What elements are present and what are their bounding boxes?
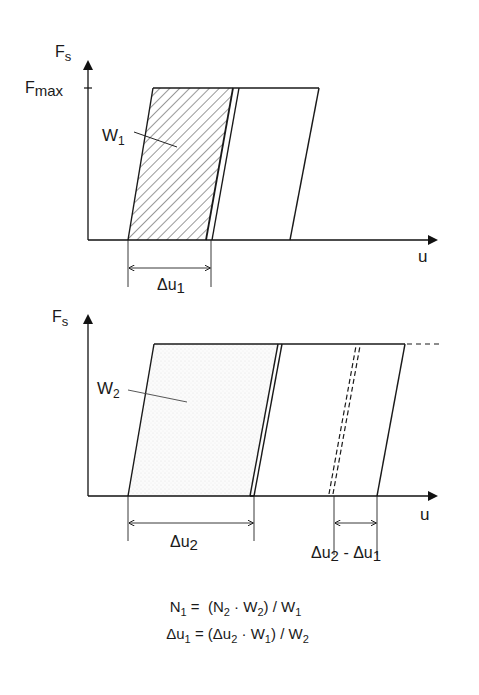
w1-label: W1 [102,126,125,148]
w2-label: W2 [97,379,120,401]
du1-label: Δu1 [157,276,185,296]
shifted-dashed-line [329,346,360,494]
diagram-canvas: Fs Fmax u W1 Δu1 [0,0,479,695]
du-difference-label: Δu2 - Δu1 [311,544,381,564]
bottom-y-axis-label: Fs [52,308,69,329]
top-x-axis-label: u [418,247,427,266]
du2-dimension [128,496,254,541]
du2-label: Δu2 [170,533,198,553]
w1-hatched-area [128,88,233,240]
bottom-x-axis-label: u [420,505,429,524]
bottom-chart: Fs u W2 Δu2 Δu2 - Δu1 [52,308,440,564]
top-y-axis-label: Fs [55,43,72,64]
formula-du1: Δu1 = (Δu2 · W1) / W2 [0,625,477,645]
top-chart: Fs Fmax u W1 Δu1 [25,43,436,296]
fmax-label: Fmax [25,79,64,99]
formula-n1: N1 = (N2 · W2) / W1 [0,598,475,618]
